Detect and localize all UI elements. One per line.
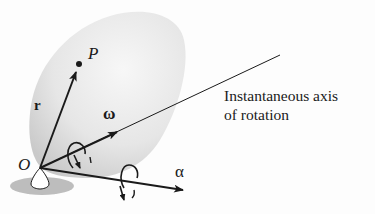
label-origin-o: O [18,155,30,175]
omega-rotation-dash [90,157,91,163]
rigid-body-rotation-diagram: P r ω O α Instantaneous axis of rotation [0,0,375,214]
point-p-dot [76,61,82,67]
axis-caption-line1: Instantaneous axis [224,87,338,105]
axis-caption-line2: of rotation [224,106,289,124]
label-point-p: P [88,44,98,64]
diagram-canvas [0,0,375,214]
label-angular-acceleration: α [175,162,184,182]
alpha-rotation-dash [132,190,134,198]
label-position-vector-r: r [34,97,41,114]
rigid-body [29,12,185,178]
label-angular-velocity: ω [103,104,115,124]
